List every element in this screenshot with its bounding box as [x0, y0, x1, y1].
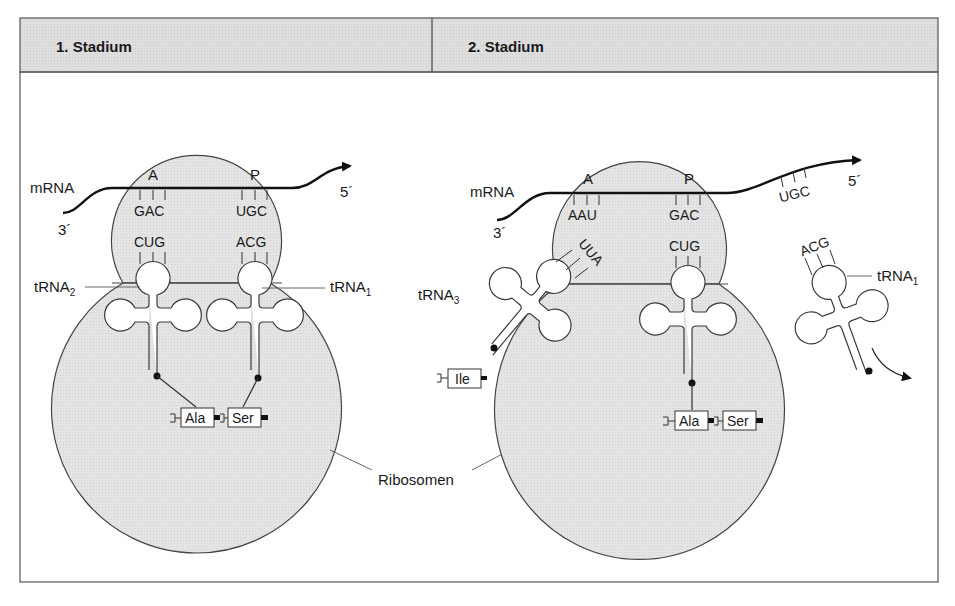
- mrna-label: mRNA: [470, 183, 514, 200]
- p-site-codon: GAC: [669, 207, 699, 223]
- a-site-label: A: [583, 170, 593, 187]
- mrna-label: mRNA: [30, 179, 74, 196]
- trna3-label: tRNA3: [418, 286, 460, 306]
- ribosome-stage1: [51, 155, 341, 553]
- exit-arrow: [872, 348, 910, 378]
- a-site-codon: GAC: [134, 203, 164, 219]
- translation-diagram: 1. Stadium 2. Stadium mRNA 3´ 5´ A P GAC…: [0, 0, 955, 606]
- trna1-label: tRNA1: [330, 278, 372, 298]
- incoming-amino-acid: Ile: [437, 369, 487, 388]
- amino-acid-ser: Ser: [232, 410, 254, 426]
- trna1-label: tRNA1: [877, 267, 919, 287]
- trna1-anticodon: ACG: [236, 234, 266, 250]
- mrna-3-prime-label: 3´: [493, 224, 506, 241]
- amino-acid-ala: Ala: [679, 413, 699, 429]
- trna2-anticodon: CUG: [134, 234, 165, 250]
- p-site-label: P: [250, 166, 260, 183]
- amino-acid-ser: Ser: [727, 413, 749, 429]
- stage2-panel: mRNA 3´ 5´ A P AAU GAC CUG UGC Ala: [418, 160, 919, 559]
- p-site-label: P: [684, 170, 694, 187]
- mrna-5-prime-label: 5´: [848, 172, 861, 189]
- a-site-codon: AAU: [568, 207, 597, 223]
- ribosomen-label: Ribosomen: [378, 471, 454, 488]
- trna2-anticodon: CUG: [669, 238, 700, 254]
- p-site-codon: UGC: [236, 203, 267, 219]
- mrna-3-prime-label: 3´: [58, 221, 71, 238]
- a-site-label: A: [148, 166, 158, 183]
- amino-acid-ala: Ala: [185, 410, 205, 426]
- stage1-title: 1. Stadium: [56, 38, 132, 55]
- trna1-anticodon: ACG: [797, 233, 831, 259]
- mrna-5-prime-label: 5´: [340, 183, 353, 200]
- stage1-panel: mRNA 3´ 5´ A P GAC UGC CUG ACG tRNA2 tRN…: [30, 155, 372, 553]
- stage2-title: 2. Stadium: [468, 38, 544, 55]
- ribosome-stage2: [494, 162, 784, 560]
- amino-acid-ile: Ile: [455, 371, 470, 387]
- trna2-label: tRNA2: [34, 278, 76, 298]
